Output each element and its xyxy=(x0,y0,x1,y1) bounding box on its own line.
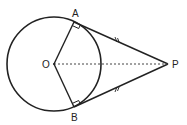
center-point xyxy=(53,63,55,65)
label-b: B xyxy=(71,112,78,123)
tangent-pb xyxy=(74,64,168,107)
tangent-pa xyxy=(74,22,168,64)
radius-oa xyxy=(54,22,74,64)
label-o: O xyxy=(42,59,50,70)
label-a: A xyxy=(72,8,79,19)
radius-ob xyxy=(54,64,74,107)
tangent-diagram: A B O P xyxy=(0,0,187,125)
label-p: P xyxy=(172,59,179,70)
right-angle-a xyxy=(72,25,80,29)
